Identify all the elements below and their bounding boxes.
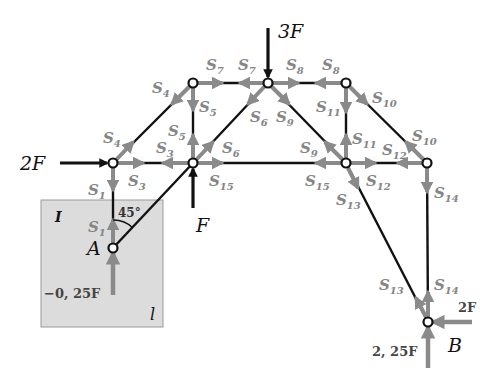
label-s15-left: S15 (209, 172, 234, 192)
label-s7-right: S7 (238, 56, 256, 76)
node-6 (342, 159, 351, 168)
arrow-s10-top (349, 86, 367, 104)
label-s12-top: S12 (382, 141, 407, 161)
label-s13-bottom: S13 (379, 276, 404, 296)
node-3 (189, 79, 198, 88)
label-s9-top: S9 (276, 108, 294, 128)
label-s5-top: S5 (199, 98, 217, 118)
node-a (109, 244, 118, 253)
corner-mark: I (54, 209, 62, 225)
label-s8-right: S8 (322, 56, 340, 76)
label-s12-bottom: S12 (366, 172, 391, 192)
arrow-s13-bottom (416, 298, 426, 317)
reaction-a-value: −0, 25F (44, 286, 101, 301)
label-s9-bottom: S9 (300, 139, 318, 159)
label-s1-top: S1 (88, 181, 106, 201)
label-s10-top: S10 (372, 89, 397, 109)
label-s14-bottom: S14 (434, 276, 459, 296)
support-a-label: A (85, 237, 101, 259)
label-s6-top: S6 (250, 108, 268, 128)
support-reactions (113, 253, 472, 368)
arrow-s6-top (248, 86, 265, 104)
angle-label: 45° (118, 206, 141, 220)
arrow-s9-bottom (325, 142, 343, 160)
length-label: l (150, 305, 155, 324)
load-f-label: F (195, 214, 210, 236)
node-4 (264, 79, 273, 88)
label-s7-left: S7 (206, 56, 224, 76)
label-s10-bottom: S10 (412, 127, 437, 147)
node-1 (109, 159, 118, 168)
label-s11-bottom: S11 (352, 130, 377, 150)
load-2f-label: 2F (19, 152, 46, 174)
node-7 (423, 159, 432, 168)
node-5 (342, 79, 351, 88)
label-s13-top: S13 (336, 191, 361, 211)
arrow-s4-top (172, 86, 190, 104)
label-s3-bottom: S3 (128, 172, 146, 192)
label-s4-top: S4 (152, 79, 170, 99)
node-2 (189, 159, 198, 168)
support-b-label: B (447, 334, 462, 356)
load-3f-label: 3F (278, 20, 304, 42)
label-s4-bottom: S4 (103, 129, 121, 149)
label-s14-top: S14 (434, 184, 459, 204)
node-b (424, 318, 433, 327)
label-s8-left: S8 (286, 56, 304, 76)
reaction-b-vertical-value: 2, 25F (372, 344, 418, 359)
reaction-b-horizontal-value: 2F (458, 300, 477, 315)
arrow-s13-top (348, 168, 358, 188)
arrow-s6-bottom (196, 142, 213, 160)
label-s5-bottom: S5 (168, 122, 186, 142)
arrow-s9-top (271, 86, 289, 104)
label-s15-right: S15 (305, 172, 330, 192)
truss-diagram: I l (0, 0, 504, 380)
cutout-box: I l (41, 200, 163, 327)
label-s3-top: S3 (156, 139, 174, 159)
label-s6-bottom: S6 (222, 139, 240, 159)
label-s11-top: S11 (316, 98, 341, 118)
